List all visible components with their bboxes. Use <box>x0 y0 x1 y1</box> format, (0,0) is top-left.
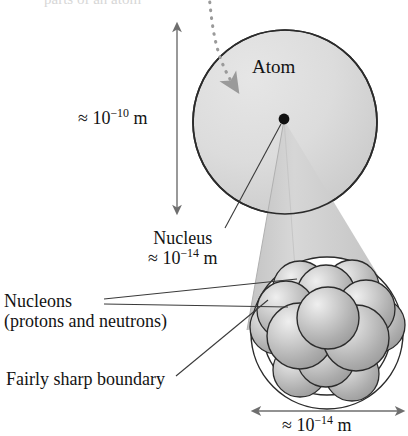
bottom-dimension-exponent: −14 <box>314 413 333 427</box>
nucleons-label-block: Nucleons (protons and neutrons) <box>4 291 167 331</box>
atom-size-label: ≈ 10−10 m <box>78 108 147 128</box>
nucleus-size-mantissa: ≈ 10 <box>148 248 180 268</box>
bottom-dimension-mantissa: ≈ 10 <box>282 415 314 435</box>
nucleus-size-label: ≈ 10−14 m <box>148 248 217 268</box>
nucleons-sublabel: (protons and neutrons) <box>4 311 167 331</box>
atom-size-exponent: −10 <box>110 106 129 120</box>
nucleus-label: Nucleus <box>148 228 217 248</box>
nucleon-sphere <box>297 287 359 349</box>
nucleus-label-block: Nucleus ≈ 10−14 m <box>148 228 217 268</box>
atom-size-unit: m <box>129 108 148 128</box>
cropped-caption-top: parts of an atom <box>44 0 141 8</box>
nucleus-size-unit: m <box>199 248 218 268</box>
atom-nucleus-scale-diagram: parts of an atom Atom ≈ 10−10 m Nucleus … <box>0 0 408 436</box>
nucleons-label: Nucleons <box>4 291 167 311</box>
boundary-label: Fairly sharp boundary <box>6 369 165 389</box>
nucleus-point <box>279 114 290 125</box>
nucleus-size-exponent: −14 <box>180 246 199 260</box>
nucleus-bottom-dimension-label: ≈ 10−14 m <box>282 415 351 435</box>
atom-size-mantissa: ≈ 10 <box>78 108 110 128</box>
atom-label: Atom <box>252 56 295 77</box>
bottom-dimension-unit: m <box>333 415 352 435</box>
